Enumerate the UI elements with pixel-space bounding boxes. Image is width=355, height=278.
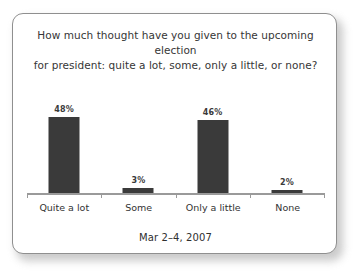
bar-group-only-a-little: 46% (176, 98, 250, 193)
chart-card-page: How much thought have you given to the u… (0, 0, 355, 278)
chart-date-footer: Mar 2–4, 2007 (27, 232, 324, 243)
bar-only-a-little (197, 120, 228, 193)
bar-group-none: 2% (250, 98, 324, 193)
x-tick-label-only-a-little: Only a little (176, 202, 251, 213)
bar-value-label: 46% (203, 108, 223, 117)
x-axis-tick (101, 193, 102, 198)
x-tick-label-some: Some (102, 202, 177, 213)
bar-value-label: 2% (280, 178, 294, 187)
bar-value-label: 48% (54, 105, 74, 114)
x-axis-tick (324, 193, 325, 198)
x-axis-tick (27, 193, 28, 198)
bar-quite-a-lot (49, 117, 80, 193)
x-tick-label-none: None (251, 202, 326, 213)
title-line-2: for president: quite a lot, some, only a… (27, 58, 324, 73)
poll-result-card: How much thought have you given to the u… (12, 13, 337, 254)
x-tick-label-quite-a-lot: Quite a lot (27, 202, 102, 213)
x-axis-category-labels: Quite a lot Some Only a little None (27, 202, 325, 218)
x-axis-tick (250, 193, 251, 198)
chart-question-title: How much thought have you given to the u… (27, 28, 324, 73)
bar-plot-area: 48% 3% 46% 2% (27, 98, 324, 193)
bar-value-label: 3% (131, 176, 145, 185)
bar-group-quite-a-lot: 48% (27, 98, 101, 193)
bar-group-some: 3% (101, 98, 175, 193)
title-line-1: How much thought have you given to the u… (37, 29, 313, 56)
x-axis-tick (176, 193, 177, 198)
